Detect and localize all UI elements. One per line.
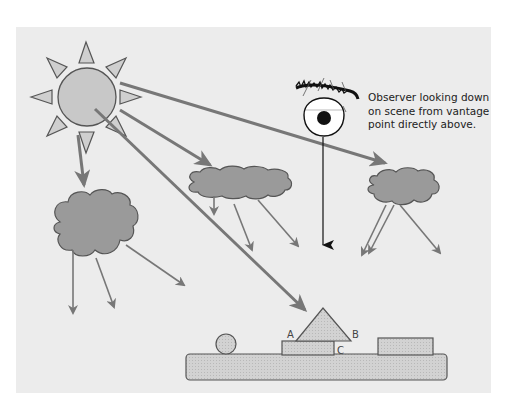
- caption-line-1: Observer looking down: [368, 91, 498, 105]
- pyramid: [296, 308, 351, 341]
- eye-icon: [296, 78, 358, 136]
- ray-to-far-cloud: [120, 83, 385, 163]
- cloud-right-rays: [362, 205, 440, 255]
- cloud-right: [368, 168, 439, 205]
- scene-diagram: A B C: [0, 0, 511, 412]
- ground-slab: [186, 354, 447, 380]
- caption-line-3: point directly above.: [368, 118, 498, 132]
- box-under-pyramid: [282, 341, 334, 355]
- scene-ground: A B C: [186, 308, 447, 380]
- caption-line-2: on scene from vantage: [368, 105, 498, 119]
- cloud-left: [54, 190, 138, 256]
- sphere: [216, 334, 236, 354]
- cloud-middle: [189, 166, 291, 199]
- label-c: C: [337, 345, 344, 356]
- label-a: A: [287, 329, 294, 340]
- label-b: B: [352, 329, 359, 340]
- ray-to-middle-cloud: [120, 110, 210, 165]
- cloud-middle-rays: [214, 196, 298, 250]
- box-right: [378, 338, 433, 355]
- observer-caption: Observer looking down on scene from vant…: [368, 91, 498, 132]
